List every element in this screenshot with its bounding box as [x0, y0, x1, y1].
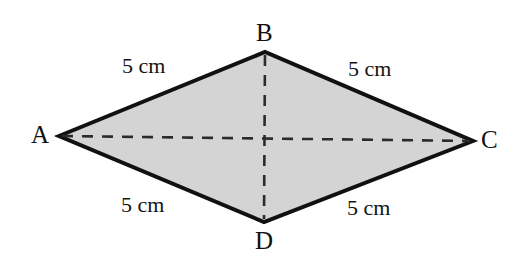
rhombus-figure: A B C D 5 cm 5 cm 5 cm 5 cm: [0, 0, 521, 262]
vertex-label-b: B: [256, 20, 273, 45]
side-length-label-ab: 5 cm: [122, 55, 165, 77]
vertex-label-d: D: [255, 228, 273, 253]
side-length-label-bc: 5 cm: [348, 58, 391, 80]
vertex-label-a: A: [31, 122, 49, 147]
side-length-label-ad: 5 cm: [121, 194, 164, 216]
side-length-label-dc: 5 cm: [347, 197, 390, 219]
vertex-label-c: C: [481, 127, 498, 152]
